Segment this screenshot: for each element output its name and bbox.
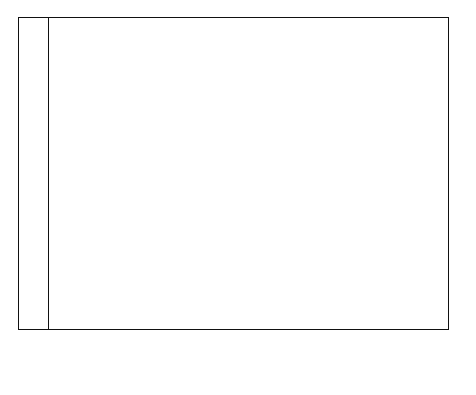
aspect-label-column bbox=[19, 18, 49, 329]
x-axis bbox=[18, 330, 449, 331]
running-head bbox=[0, 0, 476, 10]
chart-plot-area bbox=[18, 17, 449, 330]
chart-bands bbox=[49, 18, 448, 329]
